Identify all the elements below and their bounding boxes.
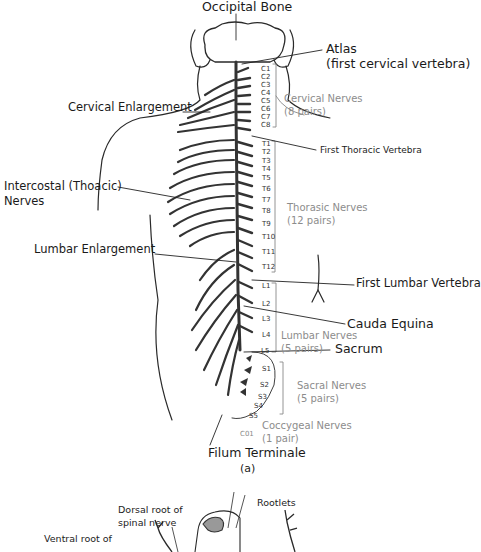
label-cervical-enlargement: Cervical Enlargement	[68, 101, 192, 114]
segment-s5: S5	[249, 413, 258, 420]
segment-c1: C1	[261, 66, 270, 73]
segment-s3: S3	[258, 394, 267, 401]
segment-s4: S4	[254, 403, 263, 410]
segment-c8: C8	[261, 122, 270, 129]
label-coccygeal-pairs: (1 pair)	[262, 433, 299, 445]
label-atlas: Atlas	[326, 42, 357, 56]
segment-c4: C4	[261, 90, 270, 97]
label-cervical-pairs: (8 pairs)	[284, 106, 326, 118]
segment-l3: L3	[262, 316, 270, 323]
label-filum-terminale: Filum Terminale	[208, 446, 306, 460]
label-dorsal-root-2: spinal nerve	[118, 518, 176, 529]
label-thoracic-nerves: Thorasic Nerves	[287, 202, 368, 214]
label-first-thoracic-vertebra: First Thoracic Vertebra	[320, 145, 422, 155]
segment-c2: C2	[261, 74, 270, 81]
segment-c6: C6	[261, 106, 270, 113]
segment-s1: S1	[262, 366, 271, 373]
segment-t7: T7	[262, 197, 271, 204]
panel-a-caption: (a)	[240, 463, 255, 476]
label-rootlets: Rootlets	[257, 498, 296, 509]
label-thoracic-pairs: (12 pairs)	[287, 215, 335, 227]
segment-t2: T2	[262, 149, 271, 156]
segment-c5: C5	[261, 98, 270, 105]
label-intercostal-nerves-2: Nerves	[4, 195, 44, 208]
segment-t12: T12	[262, 264, 275, 271]
label-sacrum: Sacrum	[335, 342, 383, 356]
label-dorsal-root: Dorsal root of	[118, 505, 183, 516]
segment-t6: T6	[262, 186, 271, 193]
label-sacral-nerves: Sacral Nerves	[297, 380, 366, 392]
label-lumbar-pairs: (5 pairs)	[281, 343, 323, 355]
segment-c7: C7	[261, 114, 270, 121]
label-first-lumbar-vertebra: First Lumbar Vertebra	[356, 277, 481, 290]
segment-s2: S2	[260, 382, 269, 389]
segment-co1: C01	[240, 431, 254, 438]
segment-t1: T1	[262, 141, 271, 148]
segment-l1: L1	[262, 283, 270, 290]
label-atlas-sub: (first cervical vertebra)	[326, 57, 470, 71]
label-coccygeal-nerves: Coccygeal Nerves	[262, 420, 352, 432]
label-intercostal-nerves: Intercostal (Thoacic)	[4, 180, 122, 193]
label-occipital-bone: Occipital Bone	[202, 0, 292, 14]
segment-l4: L4	[262, 332, 270, 339]
segment-t9: T9	[262, 221, 271, 228]
segment-c3: C3	[261, 82, 270, 89]
segment-t10: T10	[262, 234, 275, 241]
segment-l5: L5	[261, 348, 269, 355]
label-lumbar-nerves: Lumbar Nerves	[281, 330, 357, 342]
segment-t11: T11	[262, 249, 275, 256]
label-cervical-nerves: Cervical Nerves	[284, 93, 363, 105]
segment-t5: T5	[262, 175, 271, 182]
label-cauda-equina: Cauda Equina	[347, 317, 434, 331]
segment-l2: L2	[262, 301, 270, 308]
segment-t4: T4	[262, 166, 271, 173]
segment-t8: T8	[262, 208, 271, 215]
label-ventral-root: Ventral root of	[44, 534, 112, 545]
label-lumbar-enlargement: Lumbar Enlargement	[34, 243, 155, 256]
segment-t3: T3	[262, 158, 271, 165]
label-sacral-pairs: (5 pairs)	[297, 393, 339, 405]
